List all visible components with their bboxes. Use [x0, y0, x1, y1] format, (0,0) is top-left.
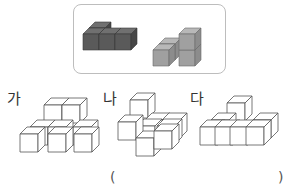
answer-blank[interactable] [120, 170, 275, 184]
answer-open-paren: ( [110, 170, 115, 184]
answer-close-paren: ) [278, 170, 283, 184]
option-da-figure[interactable] [0, 0, 295, 184]
